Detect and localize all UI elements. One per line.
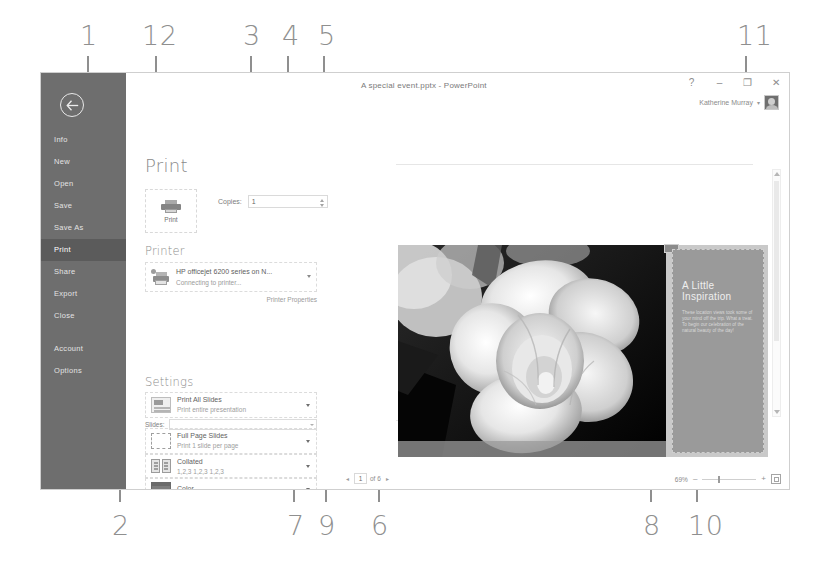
print-range-subtitle: Print entire presentation xyxy=(177,406,246,413)
callout-number-10: 10 xyxy=(688,512,723,539)
powerpoint-window: A special event.pptx - PowerPoint ? – ❐ … xyxy=(40,72,790,490)
page-title: Print xyxy=(145,155,188,176)
zoom-slider[interactable] xyxy=(702,479,756,480)
print-range-title: Print All Slides xyxy=(177,396,222,403)
sidebar-item-label: Options xyxy=(54,366,82,375)
sidebar-item-label: Print xyxy=(54,245,71,254)
collation-dropdown[interactable]: Collated 1,2,3 1,2,3 1,2,3 xyxy=(145,454,317,478)
printer-icon xyxy=(161,200,181,213)
slide-body: These location views took some of your m… xyxy=(682,310,754,334)
window-controls: ? – ❐ ✕ xyxy=(686,78,781,88)
sidebar-item-account[interactable]: Account xyxy=(41,338,126,360)
sidebar-item-label: Open xyxy=(54,179,74,188)
slide-photo xyxy=(398,245,666,457)
zoom-percent-label: 69% xyxy=(675,476,688,483)
sidebar-item-close[interactable]: Close xyxy=(41,305,126,327)
printer-properties-link[interactable]: Printer Properties xyxy=(145,296,317,303)
callout-number-2: 2 xyxy=(112,512,130,539)
chevron-down-icon[interactable]: ▾ xyxy=(757,99,760,106)
avatar[interactable] xyxy=(764,95,779,110)
zoom-slider-handle[interactable] xyxy=(718,476,720,483)
help-icon[interactable]: ? xyxy=(686,78,697,88)
minimize-icon[interactable]: – xyxy=(714,78,725,88)
sidebar-item-label: Export xyxy=(54,289,77,298)
sidebar-item-save-as[interactable]: Save As xyxy=(41,217,126,239)
chevron-down-icon[interactable] xyxy=(310,424,314,426)
chevron-down-icon[interactable] xyxy=(306,440,310,443)
preview-statusbar: ◂ 1 of 6 ▸ 69% – + xyxy=(336,463,789,489)
close-icon[interactable]: ✕ xyxy=(770,78,781,88)
sidebar-item-print[interactable]: Print Ctrl+P xyxy=(41,239,126,261)
zoom-control: 69% – + xyxy=(675,474,781,484)
color-mode-dropdown[interactable]: Color xyxy=(145,478,317,490)
previous-page-icon[interactable]: ◂ xyxy=(344,475,351,482)
print-layout-title: Full Page Slides xyxy=(177,432,228,439)
next-page-icon[interactable]: ▸ xyxy=(384,475,391,482)
sidebar-item-export[interactable]: Export xyxy=(41,283,126,305)
copies-group: Copies: 1 xyxy=(218,195,328,208)
color-mode-title: Color xyxy=(177,485,194,490)
print-layout-dropdown[interactable]: Full Page Slides Print 1 slide per page xyxy=(145,428,317,454)
collate-icon xyxy=(151,459,171,475)
print-preview: A Little Inspiration These location view… xyxy=(336,117,789,489)
sidebar-item-label: Info xyxy=(54,135,68,144)
printer-selector[interactable]: HP officejet 6200 series on N... Connect… xyxy=(145,262,317,292)
printer-status: Connecting to printer... xyxy=(176,279,241,286)
slide-title: A Little Inspiration xyxy=(682,280,754,302)
page-count-label: of 6 xyxy=(370,475,381,482)
slides-label: Slides: xyxy=(145,421,165,428)
chevron-down-icon[interactable] xyxy=(307,275,311,278)
collation-title: Collated xyxy=(177,458,203,465)
callout-number-7: 7 xyxy=(287,512,305,539)
collation-subtitle: 1,2,3 1,2,3 1,2,3 xyxy=(177,468,224,475)
printer-section-heading: Printer xyxy=(145,244,185,258)
backstage-rail: Info New Open Save Save As Print Ctrl+P … xyxy=(41,73,126,489)
title-bar: A special event.pptx - PowerPoint ? – ❐ … xyxy=(41,73,789,117)
page-number-input[interactable]: 1 xyxy=(354,473,367,484)
sidebar-item-options[interactable]: Options xyxy=(41,360,126,382)
back-arrow-icon[interactable] xyxy=(60,93,84,117)
callout-number-6: 6 xyxy=(371,512,389,539)
print-button[interactable]: Print xyxy=(145,189,197,233)
restore-icon[interactable]: ❐ xyxy=(742,78,753,88)
sidebar-item-label: Save xyxy=(54,201,72,210)
scroll-up-icon[interactable] xyxy=(774,172,780,176)
sidebar-item-new[interactable]: New xyxy=(41,151,126,173)
account-area[interactable]: Katherine Murray ▾ xyxy=(699,95,779,110)
slide-preview[interactable]: A Little Inspiration These location view… xyxy=(398,245,768,457)
callout-number-1: 1 xyxy=(80,22,98,49)
callout-number-11: 11 xyxy=(737,22,772,49)
sidebar-item-share[interactable]: Share xyxy=(41,261,126,283)
user-name-label: Katherine Murray xyxy=(699,99,753,106)
sidebar-item-label: Close xyxy=(54,311,75,320)
zoom-in-icon[interactable]: + xyxy=(761,475,766,483)
backstage-menu: Info New Open Save Save As Print Ctrl+P … xyxy=(41,129,126,382)
color-icon xyxy=(151,482,171,490)
sidebar-item-save[interactable]: Save xyxy=(41,195,126,217)
zoom-out-icon[interactable]: – xyxy=(693,475,697,483)
printer-name: HP officejet 6200 series on N... xyxy=(176,268,272,275)
copies-spinner[interactable] xyxy=(318,197,326,208)
chevron-down-icon[interactable] xyxy=(306,465,310,468)
copies-stepper[interactable]: 1 xyxy=(248,195,328,208)
callout-number-9: 9 xyxy=(318,512,336,539)
fit-to-window-icon[interactable] xyxy=(771,474,781,484)
print-range-dropdown[interactable]: Print All Slides Print entire presentati… xyxy=(145,392,317,418)
scroll-down-icon[interactable] xyxy=(774,410,780,414)
window-title: A special event.pptx - PowerPoint xyxy=(361,81,487,90)
callout-number-8: 8 xyxy=(643,512,661,539)
chevron-down-icon[interactable] xyxy=(306,488,310,491)
sidebar-item-label: New xyxy=(54,157,70,166)
full-page-slides-icon xyxy=(151,433,171,449)
scrollbar-thumb[interactable] xyxy=(774,181,779,341)
preview-scrollbar[interactable] xyxy=(772,169,781,417)
chevron-down-icon[interactable] xyxy=(306,404,310,407)
callout-number-5: 5 xyxy=(318,22,336,49)
print-button-label: Print xyxy=(164,216,177,223)
callout-number-3: 3 xyxy=(243,22,261,49)
sidebar-item-label: Account xyxy=(54,344,83,353)
sidebar-item-info[interactable]: Info xyxy=(41,129,126,151)
slide-text-panel: A Little Inspiration These location view… xyxy=(672,249,764,453)
print-range-icon xyxy=(151,397,171,413)
sidebar-item-open[interactable]: Open xyxy=(41,173,126,195)
